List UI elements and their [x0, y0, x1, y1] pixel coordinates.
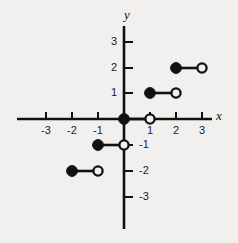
- y-axis-label: y: [122, 7, 130, 22]
- y-tick-label-neg3: -3: [139, 190, 149, 202]
- x-tick-label-pos1: 1: [147, 124, 153, 136]
- x-tick-label-neg2: -2: [67, 124, 77, 136]
- open-point-2-1: [171, 88, 180, 97]
- x-tick-label-pos2: 2: [173, 124, 179, 136]
- closed-point-1-1: [145, 88, 156, 99]
- closed-point-2-2: [171, 63, 182, 74]
- segment-y0: [119, 114, 155, 125]
- y-tick-label-neg2: -2: [139, 164, 149, 176]
- y-tick-label-pos1: 1: [111, 86, 117, 98]
- closed-point-neg1-neg1: [93, 140, 104, 151]
- open-point-neg1-neg2: [93, 166, 102, 175]
- closed-point-0-0: [119, 114, 130, 125]
- open-point-1-0: [145, 114, 154, 123]
- open-point-0-neg1: [119, 140, 128, 149]
- x-tick-label-pos3: 3: [199, 124, 205, 136]
- x-tick-label-neg3: -3: [41, 124, 51, 136]
- closed-point-neg2-neg2: [67, 166, 78, 177]
- x-axis-label: x: [215, 108, 222, 123]
- open-point-3-2: [197, 63, 206, 72]
- segment-yneg1: [93, 140, 129, 151]
- y-tick-label-pos3: 3: [111, 35, 117, 47]
- y-tick-label-pos2: 2: [111, 61, 117, 73]
- y-tick-label-neg1: -1: [139, 138, 149, 150]
- step-function-graph-figure: -3 -2 -1 1 2 3 3 2 1 -1 -2 -3 x y: [0, 0, 238, 243]
- cartesian-plot: -3 -2 -1 1 2 3 3 2 1 -1 -2 -3 x y: [0, 0, 238, 243]
- segment-y1: [145, 88, 181, 99]
- segment-yneg2: [67, 166, 103, 177]
- segment-y2: [171, 63, 207, 74]
- x-tick-label-neg1: -1: [93, 124, 103, 136]
